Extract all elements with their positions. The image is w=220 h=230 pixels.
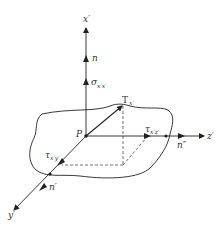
x-axis-label: x′ (83, 14, 90, 24)
traction-subscript: x′ (129, 99, 134, 106)
dashed-projection-lines (62, 106, 148, 165)
tau-xy-subscript: x′y′ (50, 154, 60, 162)
n-prime-label: n′ (49, 182, 57, 192)
point-p (84, 134, 88, 138)
point-p-label: P (75, 129, 83, 139)
traction-label: T (122, 95, 128, 105)
y-axis-label: y′ (7, 210, 15, 220)
stress-traction-diagram: x′ n σ x′x′ T x′ P τ x′z′ n″ z′ τ x′y′ n… (0, 0, 220, 230)
n-arrow-icon (83, 55, 89, 62)
y-axis-surface-point (48, 172, 51, 175)
surface-outline (30, 104, 173, 178)
n-double-prime-label: n″ (177, 140, 187, 150)
n-label: n (92, 53, 98, 63)
traction-vector (86, 106, 122, 136)
n-prime-arrow-icon (39, 183, 47, 191)
n-double-prime-arrow-icon (178, 133, 185, 139)
tau-xz-subscript: x′z′ (150, 128, 160, 135)
z-axis-surface-point (164, 134, 167, 137)
sigma-arrow-icon (83, 78, 89, 85)
sigma-subscript: x′x′ (97, 82, 107, 89)
z-axis-label: z′ (206, 131, 214, 141)
